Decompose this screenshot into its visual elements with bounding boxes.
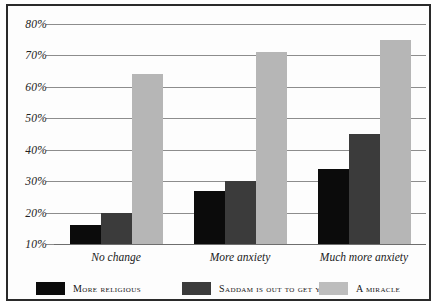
x-axis-category-label: More anxiety [178,251,302,263]
legend-color-swatch [36,282,65,295]
bar [349,134,380,244]
x-axis-category-label: Much more anxiety [302,251,426,263]
legend-color-swatch [319,282,348,295]
plot-area: 10%20%30%40%50%60%70%80% No changeMore a… [54,24,426,244]
y-axis-tick-mark [46,87,54,88]
chart-figure: 10%20%30%40%50%60%70%80% No changeMore a… [0,0,437,308]
y-axis-tick-label: 30% [25,175,47,187]
legend-label: More religious [73,283,141,294]
legend-item[interactable]: Saddam is out to get you [182,282,332,295]
y-axis-tick-label: 40% [25,144,47,156]
bar [101,213,132,244]
bar [70,225,101,244]
y-axis-tick-mark [46,244,54,245]
bar [256,52,287,244]
y-axis-tick-mark [46,24,54,25]
y-axis-tick-label: 70% [25,49,47,61]
bar [318,169,349,244]
bar-group: More anxiety [178,24,302,244]
x-axis-baseline [54,244,426,245]
bar [380,40,411,244]
bar [132,74,163,244]
y-axis-tick-label: 60% [25,81,47,93]
bar-group: Much more anxiety [302,24,426,244]
bar [225,181,256,244]
x-axis-category-label: No change [54,251,178,263]
bar-groups: No changeMore anxietyMuch more anxiety [54,24,426,244]
y-axis-tick-label: 50% [25,112,47,124]
y-axis-tick-label: 10% [25,238,47,250]
chart-legend: More religiousSaddam is out to get youA … [22,278,432,298]
legend-label: A miracle [356,283,400,294]
y-axis-tick-mark [46,118,54,119]
y-axis-tick-label: 20% [25,207,47,219]
bar-group: No change [54,24,178,244]
y-axis-tick-label: 80% [25,18,47,30]
bar [194,191,225,244]
y-axis-tick-mark [46,213,54,214]
legend-item[interactable]: A miracle [319,282,400,295]
legend-color-swatch [182,282,211,295]
legend-label: Saddam is out to get you [219,283,332,294]
y-axis-tick-mark [46,55,54,56]
legend-item[interactable]: More religious [36,282,141,295]
y-axis-tick-mark [46,150,54,151]
chart-frame-border: 10%20%30%40%50%60%70%80% No changeMore a… [6,4,431,301]
